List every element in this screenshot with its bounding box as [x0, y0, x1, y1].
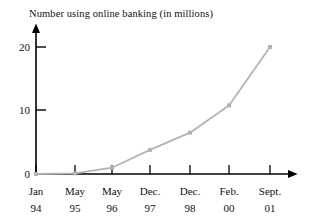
chart-plot-area: 20 10 0 Jan 94 May	[0, 0, 312, 222]
x-label-3-month: Dec.	[140, 185, 161, 197]
data-point-3	[148, 148, 152, 152]
chart-container: Number using online banking (in millions…	[0, 0, 312, 222]
data-point-4	[188, 131, 192, 135]
data-point-5	[227, 103, 231, 107]
data-point-6	[268, 45, 272, 49]
y-tick-label-20: 20	[19, 41, 31, 53]
x-label-4-year: 98	[185, 202, 197, 214]
x-label-1-year: 95	[70, 202, 82, 214]
data-point-1	[73, 171, 77, 175]
x-label-0-month: Jan	[29, 185, 44, 197]
x-label-4-month: Dec.	[180, 185, 201, 197]
data-point-2	[110, 166, 114, 170]
series-line	[36, 47, 270, 174]
x-label-6-month: Sept.	[259, 185, 282, 197]
x-axis-labels: Jan 94 May 95 May 96 Dec. 97 Dec. 98 Feb…	[29, 185, 282, 214]
series-markers	[34, 45, 272, 176]
x-label-6-year: 01	[265, 202, 276, 214]
y-tick-label-0: 0	[25, 168, 31, 180]
x-label-2-month: May	[102, 185, 123, 197]
x-label-5-year: 00	[224, 202, 236, 214]
y-tick-label-10: 10	[19, 104, 31, 116]
x-label-1-month: May	[65, 185, 86, 197]
data-point-0	[34, 172, 38, 176]
x-label-0-year: 94	[31, 202, 43, 214]
x-label-3-year: 97	[145, 202, 157, 214]
y-axis-ticks	[36, 47, 46, 110]
x-label-5-month: Feb.	[219, 185, 239, 197]
x-label-2-year: 96	[107, 202, 119, 214]
